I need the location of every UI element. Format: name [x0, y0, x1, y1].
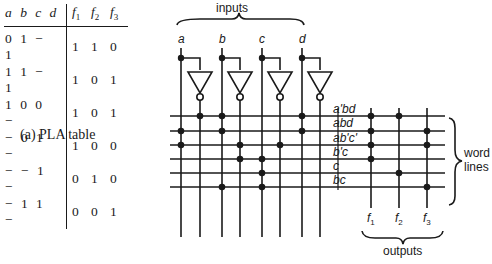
inverter-c: [268, 72, 292, 93]
inverter-b: [228, 72, 252, 93]
outputs-brace: [362, 231, 443, 244]
term-label-4: b'c: [333, 145, 348, 159]
term-label-5: c: [333, 159, 339, 173]
outputs-label: outputs: [383, 244, 422, 258]
word-lines-brace: [449, 118, 462, 205]
output-label-f3: f3: [423, 211, 431, 227]
pla-circuit-diagram: inputs a b c d a'bd abd ab'c' b'c c bc w…: [0, 0, 492, 264]
term-label-1: a'bd: [333, 102, 356, 116]
inverter-a: [188, 72, 212, 93]
term-label-2: abd: [333, 116, 353, 130]
input-label-b: b: [219, 32, 226, 46]
word-lines-label-2: lines: [464, 160, 489, 174]
output-label-f2: f2: [395, 211, 403, 227]
input-label-d: d: [299, 32, 306, 46]
term-label-6: bc: [333, 173, 346, 187]
term-label-3: ab'c': [333, 131, 358, 145]
inverter-d: [308, 72, 332, 93]
output-label-f1: f1: [367, 211, 375, 227]
inputs-label: inputs: [216, 1, 248, 15]
word-lines-label-1: word: [463, 146, 490, 160]
input-label-c: c: [259, 32, 265, 46]
input-label-a: a: [178, 32, 185, 46]
